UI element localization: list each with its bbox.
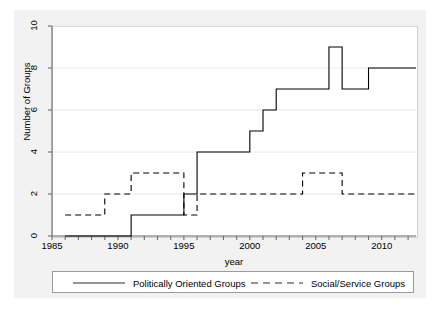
series-line-1: [65, 47, 416, 236]
chart-figure: Number of Groups 0246810 198519901995200…: [0, 0, 433, 310]
tick-marks: [48, 26, 408, 240]
x-tick-label-1985: 1985: [32, 240, 72, 251]
x-tick-label-2010: 2010: [362, 240, 402, 251]
x-tick-label-1995: 1995: [164, 240, 204, 251]
y-tick-label-4: 4: [28, 143, 39, 161]
y-tick-label-6: 6: [28, 101, 39, 119]
y-tick-label-8: 8: [28, 59, 39, 77]
series-line-2: [65, 173, 416, 215]
data-series-layer: [65, 47, 416, 236]
legend-key-dashed-line: [249, 277, 305, 289]
legend-entry-social-service-groups: Social/Service Groups: [249, 272, 405, 294]
axis-lines: [52, 26, 416, 236]
legend: Politically Oriented Groups Social/Servi…: [52, 271, 414, 293]
legend-key-solid-line: [71, 277, 127, 289]
y-tick-label-10: 10: [28, 17, 39, 35]
x-axis-title: year: [52, 256, 416, 267]
legend-label-politically-oriented-groups: Politically Oriented Groups: [127, 278, 245, 289]
x-tick-label-2000: 2000: [230, 240, 270, 251]
x-tick-label-1990: 1990: [98, 240, 138, 251]
x-tick-label-2005: 2005: [296, 240, 336, 251]
legend-label-social-service-groups: Social/Service Groups: [305, 278, 405, 289]
gridlines: [52, 26, 416, 236]
y-tick-label-2: 2: [28, 185, 39, 203]
legend-entry-politically-oriented-groups: Politically Oriented Groups: [71, 272, 245, 294]
